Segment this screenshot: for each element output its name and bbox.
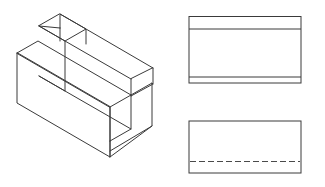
drawing-sheet: Isometric pictorial view Top view Front … — [0, 0, 325, 187]
sheet-background — [0, 0, 325, 187]
engineering-drawing-canvas — [0, 0, 325, 187]
iso-right-end-outer-edge-vertical — [152, 83, 153, 84]
